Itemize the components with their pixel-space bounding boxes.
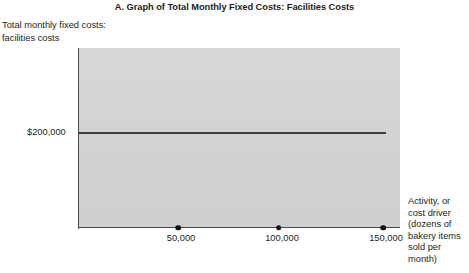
chart-title: A. Graph of Total Monthly Fixed Costs: F… <box>0 2 469 12</box>
x-axis-title-line-6: month) <box>408 254 469 266</box>
x-axis-title-line-5: sold per <box>408 242 469 254</box>
x-axis-title-line-1: Activity, or <box>408 196 469 208</box>
x-tick-label-150000: 150,000 <box>369 233 403 243</box>
fixed-costs-chart-figure: A. Graph of Total Monthly Fixed Costs: F… <box>0 0 469 273</box>
x-axis-line <box>78 227 400 228</box>
x-tick-label-50000: 50,000 <box>167 233 195 243</box>
x-tick-dot-50000 <box>175 225 181 231</box>
y-axis-line <box>78 48 79 229</box>
y-axis-title-line-2: facilities costs <box>2 32 152 45</box>
plot-area <box>78 48 400 228</box>
y-tick-label-200000: $200,000 <box>27 127 66 137</box>
y-axis-title: Total monthly fixed costs: facilities co… <box>2 19 152 46</box>
x-axis-title-line-4: bakery items <box>408 231 469 243</box>
x-axis-title-line-3: (dozens of <box>408 219 469 231</box>
x-tick-dot-150000 <box>380 225 386 231</box>
y-axis-title-line-1: Total monthly fixed costs: <box>2 19 152 32</box>
fixed-cost-series-line <box>79 132 386 134</box>
x-tick-dot-100000 <box>276 225 282 231</box>
x-axis-title-line-2: cost driver <box>408 208 469 220</box>
x-axis-title: Activity, or cost driver (dozens of bake… <box>408 196 469 266</box>
x-tick-label-100000: 100,000 <box>265 233 299 243</box>
